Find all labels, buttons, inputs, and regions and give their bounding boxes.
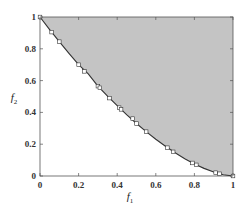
- open-square-marker: [77, 63, 81, 67]
- open-square-marker: [191, 161, 195, 165]
- x-tick-label: 0: [38, 180, 43, 190]
- open-square-marker: [119, 108, 123, 112]
- y-tick-label: 0: [32, 171, 37, 181]
- open-square-marker: [171, 150, 175, 154]
- y-tick-label: 0.4: [25, 107, 37, 117]
- dominated-region-shading: [40, 17, 233, 176]
- shaded-area: [40, 17, 233, 176]
- x-axis-label: f1: [127, 190, 134, 205]
- pareto-front-chart: 00.20.40.60.81 00.20.40.60.81 f1 f2: [0, 0, 244, 215]
- open-square-marker: [214, 171, 218, 175]
- y-tick-label: 0.6: [25, 76, 37, 86]
- open-square-marker: [83, 70, 87, 74]
- open-square-marker: [166, 146, 170, 150]
- open-square-marker: [135, 122, 139, 126]
- open-square-marker: [195, 163, 199, 167]
- y-tick-label: 0.2: [25, 139, 37, 149]
- open-square-marker: [144, 130, 148, 134]
- x-tick-label: 0.6: [150, 180, 162, 190]
- open-square-marker: [50, 30, 54, 34]
- x-tick-label: 1: [231, 180, 236, 190]
- x-tick-label: 0.2: [73, 180, 85, 190]
- open-square-marker: [131, 117, 135, 121]
- y-tick-label: 1: [32, 12, 37, 22]
- x-tick-label: 0.4: [112, 180, 124, 190]
- open-square-marker: [58, 40, 62, 44]
- open-square-marker: [218, 172, 222, 176]
- x-tick-label: 0.8: [189, 180, 201, 190]
- open-square-marker: [108, 96, 112, 100]
- y-axis-label: f2: [11, 91, 18, 106]
- open-square-marker: [98, 86, 102, 90]
- y-tick-label: 0.8: [25, 44, 37, 54]
